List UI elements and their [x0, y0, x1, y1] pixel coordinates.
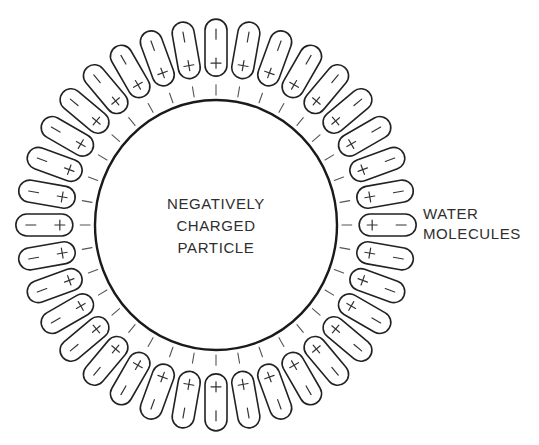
water-molecule: [17, 240, 77, 272]
water-molecule: [355, 240, 415, 272]
water-molecule-body: [355, 240, 415, 272]
surface-negative-charge-mark: [112, 309, 120, 316]
water-molecule: [17, 178, 77, 210]
surface-negative-charge-mark: [297, 118, 303, 126]
water-molecule: [205, 374, 227, 431]
water-molecule-body: [230, 370, 262, 430]
water-molecule-body: [230, 20, 262, 80]
water-molecule: [170, 370, 202, 430]
surface-negative-charge-mark: [82, 248, 92, 250]
water-molecule: [205, 19, 227, 76]
surface-negative-charge-mark: [334, 177, 343, 180]
surface-negative-charge-mark: [279, 338, 284, 347]
water-molecule: [355, 178, 415, 210]
particle-label: NEGATIVELY CHARGED PARTICLE: [167, 195, 265, 256]
water-molecule: [359, 214, 416, 236]
surface-negative-charge-mark: [325, 155, 334, 160]
surface-negative-charge-mark: [112, 135, 120, 142]
surface-negative-charge-mark: [238, 353, 240, 363]
surface-negative-charge-mark: [192, 87, 194, 97]
surface-negative-charge-mark: [340, 248, 350, 250]
surface-negative-charge-mark: [129, 325, 135, 333]
surface-negative-charge-mark: [312, 309, 320, 316]
particle-label-line-1: NEGATIVELY: [167, 195, 265, 212]
surface-negative-charge-mark: [98, 155, 107, 160]
surface-negative-charge-mark: [334, 269, 343, 272]
surface-negative-charge-mark: [88, 269, 97, 272]
surface-negative-charge-mark: [88, 177, 97, 180]
surface-negative-charge-mark: [148, 104, 153, 113]
particle-label-line-3: PARTICLE: [178, 239, 255, 256]
water-molecule: [170, 20, 202, 80]
surface-negative-charge-mark: [325, 290, 334, 295]
surface-negative-charge-mark: [297, 325, 303, 333]
surface-negative-charge-mark: [259, 93, 262, 103]
water-molecule-body: [170, 370, 202, 430]
surface-negative-charge-mark: [82, 201, 92, 203]
surface-negative-charge-mark: [192, 353, 194, 363]
surface-negative-charge-mark: [259, 347, 262, 357]
surface-negative-charge-mark: [170, 93, 173, 103]
surface-negative-charge-mark: [148, 338, 153, 347]
water-molecule: [230, 20, 262, 80]
water-molecules-label: WATER MOLECULES: [423, 205, 521, 242]
particle-label-line-2: CHARGED: [176, 217, 255, 234]
water-molecule: [230, 370, 262, 430]
water-molecule-body: [170, 20, 202, 80]
water-label-line-1: WATER: [423, 205, 479, 222]
surface-negative-charge-mark: [312, 135, 320, 142]
water-molecule: [16, 214, 73, 236]
water-molecule-body: [17, 240, 77, 272]
surface-negative-charge-mark: [238, 87, 240, 97]
surface-negative-charge-mark: [279, 104, 284, 113]
surface-negative-charge-mark: [170, 347, 173, 357]
water-molecule-body: [17, 178, 77, 210]
surface-negative-charge-mark: [98, 290, 107, 295]
surface-negative-charge-mark: [129, 118, 135, 126]
water-molecule-body: [355, 178, 415, 210]
water-label-line-2: MOLECULES: [423, 225, 521, 242]
particle-diagram: NEGATIVELY CHARGED PARTICLE WATER MOLECU…: [0, 0, 539, 445]
surface-negative-charge-mark: [340, 201, 350, 203]
